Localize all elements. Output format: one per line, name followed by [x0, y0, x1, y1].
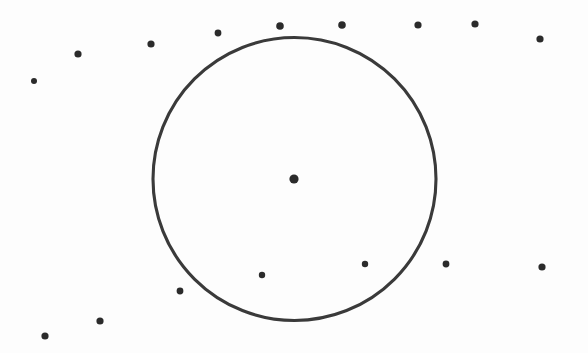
- scatter-point-outside-1: [74, 50, 81, 57]
- scatter-point-outside-7: [471, 20, 478, 27]
- scatter-plot-svg: [0, 0, 588, 353]
- center-point-marker: [289, 174, 298, 183]
- scatter-point-inside-0: [259, 272, 265, 278]
- scatter-point-outside-4: [276, 22, 284, 30]
- figure-canvas: Circle with scattered points: [0, 0, 588, 353]
- scatter-point-outside-5: [338, 21, 346, 29]
- scatter-point-outside-8: [536, 35, 543, 42]
- scatter-point-outside-6: [414, 21, 421, 28]
- scatter-point-outside-10: [443, 261, 450, 268]
- scatter-point-outside-9: [538, 263, 545, 270]
- scatter-point-outside-3: [215, 30, 222, 37]
- scatter-point-outside-2: [147, 40, 154, 47]
- scatter-point-inside-1: [362, 261, 368, 267]
- points-layer: [31, 20, 546, 339]
- scatter-point-outside-13: [41, 332, 48, 339]
- scatter-point-outside-11: [177, 288, 184, 295]
- scatter-point-outside-12: [96, 317, 103, 324]
- scatter-point-outside-0: [31, 78, 37, 84]
